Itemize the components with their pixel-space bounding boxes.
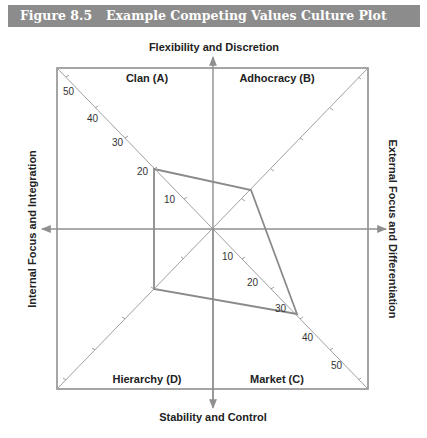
axis-label-right: External Focus and Differentiation (387, 139, 399, 318)
clan-tick-40: 40 (87, 113, 99, 124)
market-tick-10: 10 (222, 251, 234, 262)
clan-tick-20: 20 (137, 166, 149, 177)
axis-label-top: Flexibility and Discretion (149, 41, 279, 53)
clan-tick-10: 10 (164, 194, 176, 205)
clan-tick-50: 50 (63, 86, 75, 97)
market-tick-50: 50 (331, 360, 343, 371)
quadrant-label-clan: Clan (A) (126, 72, 169, 84)
competing-values-plot: 10 20 30 40 50 10 20 30 40 50 Clan (A) A… (0, 0, 427, 438)
market-tick-30: 30 (275, 303, 287, 314)
axis-label-bottom: Stability and Control (159, 411, 267, 423)
market-tick-40: 40 (302, 332, 314, 343)
quadrant-label-market: Market (C) (250, 373, 304, 385)
quadrant-label-hierarchy: Hierarchy (D) (112, 373, 181, 385)
market-tick-20: 20 (247, 277, 259, 288)
quadrant-label-adhocracy: Adhocracy (B) (239, 72, 315, 84)
axis-label-left: Internal Focus and Integration (26, 150, 38, 308)
clan-tick-30: 30 (112, 137, 124, 148)
